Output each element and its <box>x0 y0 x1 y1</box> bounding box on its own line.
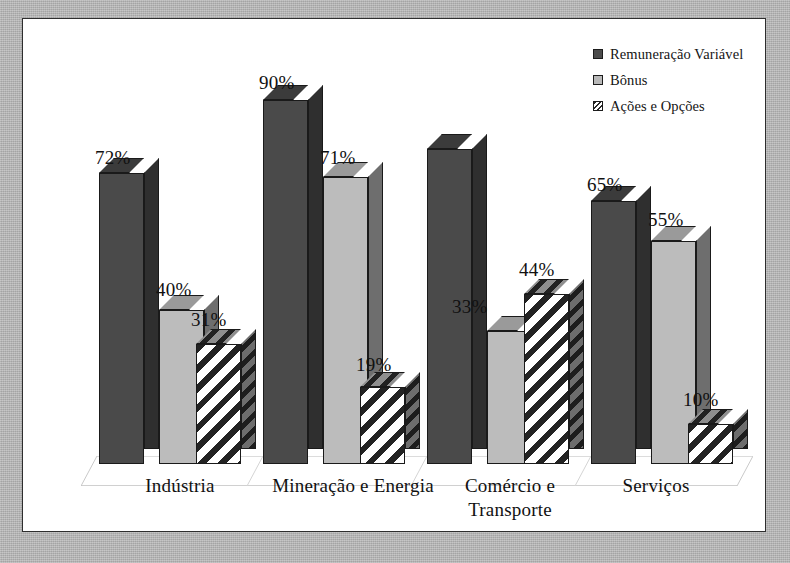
bar-value-label: 33% <box>452 296 488 318</box>
bar-side-face <box>308 85 323 449</box>
bar-value-label: 65% <box>587 174 623 196</box>
bar-side-face <box>405 372 420 449</box>
legend-item-remuneracao-variavel[interactable]: Remuneração Variável <box>593 41 765 67</box>
bar-front-face <box>688 424 733 464</box>
bar-industria-remuneracao-variavel[interactable] <box>99 173 144 464</box>
bar-value-label: 40% <box>156 279 192 301</box>
legend-swatch-hatched-icon <box>593 101 603 111</box>
bar-front-face <box>360 387 405 464</box>
bar-side-face <box>144 158 159 449</box>
bar-front-face <box>524 294 569 464</box>
bar-value-label: 90% <box>259 72 295 94</box>
legend-swatch-solid-light-icon <box>593 75 603 85</box>
bar-industria-acoes-e-opcoes[interactable] <box>196 344 241 464</box>
bar-side-face <box>569 279 584 449</box>
legend-swatch-solid-dark-icon <box>593 49 603 59</box>
legend-item-label: Remuneração Variável <box>610 46 743 63</box>
legend-item-bonus[interactable]: Bônus <box>593 67 765 93</box>
bar-mineracao-acoes-e-opcoes[interactable] <box>360 387 405 464</box>
bar-front-face <box>196 344 241 464</box>
bar-top-face <box>427 134 472 149</box>
bar-servicos-acoes-e-opcoes[interactable] <box>688 424 733 464</box>
legend-item-label: Bônus <box>610 72 648 89</box>
bar-value-label: 10% <box>683 389 719 411</box>
screenshot-page: 72% 40% 31% 90% <box>0 0 790 563</box>
bar-side-face <box>241 329 256 449</box>
bar-front-face <box>263 100 308 464</box>
bar-top-face <box>524 279 569 294</box>
bar-value-label: 72% <box>95 147 131 169</box>
bar-servicos-remuneracao-variavel[interactable] <box>591 201 636 464</box>
bar-mineracao-remuneracao-variavel[interactable] <box>263 100 308 464</box>
bar-value-label: 71% <box>320 147 356 169</box>
bar-value-label: 44% <box>519 259 555 281</box>
legend-item-label: Ações e Opções <box>610 98 705 115</box>
chart-legend: Remuneração Variável Bônus Ações e Opçõe… <box>593 41 765 119</box>
category-label-servicos: Serviços <box>561 474 751 498</box>
bar-comercio-acoes-e-opcoes[interactable] <box>524 294 569 464</box>
chart-frame: 72% 40% 31% 90% <box>22 18 766 532</box>
bar-value-label: 19% <box>356 354 392 376</box>
bar-value-label: 31% <box>191 309 227 331</box>
bar-side-face <box>472 134 487 449</box>
bar-side-face <box>733 409 748 449</box>
legend-item-acoes-e-opcoes[interactable]: Ações e Opções <box>593 93 765 119</box>
bar-value-label: 55% <box>648 209 684 231</box>
bar-front-face <box>99 173 144 464</box>
bar-front-face <box>591 201 636 464</box>
